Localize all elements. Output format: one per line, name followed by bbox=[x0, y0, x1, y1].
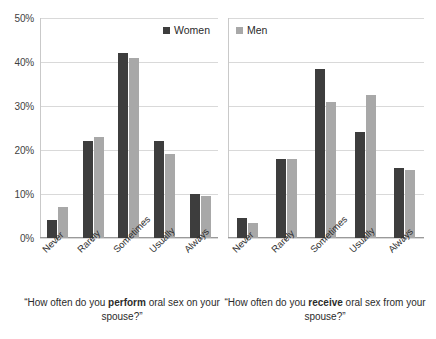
y-axis-tick: 30% bbox=[15, 101, 34, 112]
caption-receive: “How often do you receive oral sex from … bbox=[222, 296, 428, 324]
bar-women bbox=[355, 132, 365, 238]
x-axis-label-wrap: Usually bbox=[347, 242, 383, 260]
x-axis-label-wrap: Rarely bbox=[269, 242, 305, 260]
bar-group bbox=[83, 18, 104, 238]
caption-receive-bold: receive bbox=[308, 297, 342, 308]
y-axis-tick: 0% bbox=[20, 233, 34, 244]
bar-group bbox=[118, 18, 139, 238]
y-axis-tick: 40% bbox=[15, 57, 34, 68]
bar-group bbox=[315, 18, 336, 238]
x-axis-label-wrap: Usually bbox=[147, 242, 183, 260]
bar-women bbox=[83, 141, 93, 238]
bar-men bbox=[129, 58, 139, 238]
caption-perform: “How often do you perform oral sex on yo… bbox=[24, 296, 220, 324]
chart-figure: Women Men 0%10%20%30%40%50% NeverRarelyS… bbox=[0, 0, 436, 339]
bar-group bbox=[276, 18, 297, 238]
x-axis-label-wrap: Rarely bbox=[75, 242, 111, 260]
caption-perform-bold: perform bbox=[108, 297, 146, 308]
bar-group bbox=[237, 18, 258, 238]
bar-groups-left bbox=[40, 18, 218, 238]
caption-perform-pre: “How often do you bbox=[24, 297, 108, 308]
bar-men bbox=[366, 95, 376, 238]
bar-groups-right bbox=[228, 18, 424, 238]
x-axis-label-wrap: Sometimes bbox=[111, 242, 147, 260]
bar-men bbox=[94, 137, 104, 238]
x-axis-label-wrap: Never bbox=[40, 242, 76, 260]
y-axis-tick: 50% bbox=[15, 13, 34, 24]
bar-women bbox=[315, 69, 325, 238]
x-axis-label-wrap: Always bbox=[386, 242, 422, 260]
plot-area-perform bbox=[40, 18, 218, 238]
bar-group bbox=[190, 18, 211, 238]
x-axis-labels-right: NeverRarelySometimesUsuallyAlways bbox=[228, 242, 424, 288]
bar-women bbox=[154, 141, 164, 238]
caption-receive-pre: “How often do you bbox=[224, 297, 308, 308]
bar-group bbox=[355, 18, 376, 238]
y-axis-tick: 10% bbox=[15, 189, 34, 200]
bar-group bbox=[394, 18, 415, 238]
bar-women bbox=[118, 53, 128, 238]
plot-area-receive bbox=[228, 18, 424, 238]
x-axis-labels-left: NeverRarelySometimesUsuallyAlways bbox=[40, 242, 218, 288]
bar-men bbox=[287, 159, 297, 238]
bar-group bbox=[154, 18, 175, 238]
x-axis-label-wrap: Never bbox=[230, 242, 266, 260]
bar-group bbox=[47, 18, 68, 238]
y-axis: 0%10%20%30%40%50% bbox=[0, 18, 38, 238]
x-axis-label-wrap: Always bbox=[182, 242, 218, 260]
y-axis-tick: 20% bbox=[15, 145, 34, 156]
bar-women bbox=[394, 168, 404, 238]
bar-men bbox=[326, 102, 336, 238]
x-axis-label-wrap: Sometimes bbox=[308, 242, 344, 260]
bar-women bbox=[276, 159, 286, 238]
